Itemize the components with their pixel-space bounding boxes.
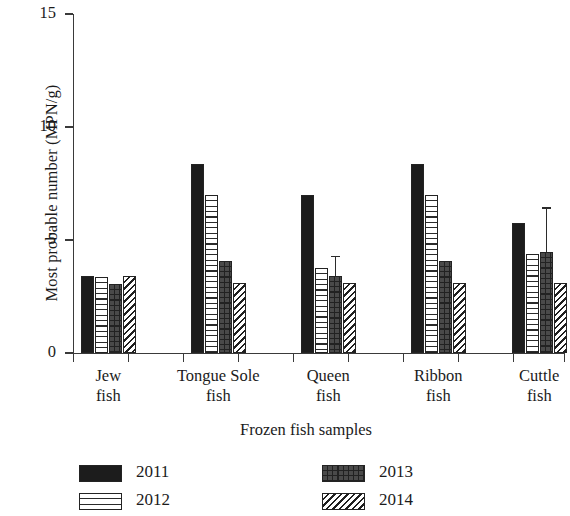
x-axis-tick-2 (183, 354, 184, 362)
y-axis-tick-label-15: 15 (10, 3, 56, 23)
x-axis-tick-5 (348, 354, 349, 362)
bar (453, 283, 466, 353)
x-axis-category-label-line: fish (479, 386, 570, 406)
y-axis-tick-5 (65, 239, 73, 240)
legend-swatch (79, 465, 122, 482)
bar (109, 284, 122, 353)
legend-swatch (322, 465, 365, 482)
x-axis-category-label-line: Jew (48, 366, 168, 386)
x-axis-category-label-line: Queen (268, 366, 388, 386)
bar (554, 283, 567, 353)
x-axis-category-label-line: fish (48, 386, 168, 406)
bar (81, 276, 94, 353)
bar (329, 276, 342, 353)
legend-label: 2014 (379, 490, 413, 510)
bar (205, 195, 218, 353)
y-axis-tick-label-5: 5 (10, 229, 56, 249)
error-bar (335, 256, 336, 276)
bar (439, 261, 452, 353)
bar-group (411, 14, 467, 353)
y-axis-tick-15 (65, 13, 73, 14)
x-axis-line (73, 353, 565, 354)
bar (526, 254, 539, 353)
bar-group (301, 14, 357, 353)
x-axis-tick-3 (238, 354, 239, 362)
x-axis-category-label-line: fish (268, 386, 388, 406)
x-axis-category-label-line: Cuttle (479, 366, 570, 386)
legend-swatch (322, 493, 365, 510)
x-axis-tick-7 (458, 354, 459, 362)
x-axis-category-label-line: Tongue Sole (158, 366, 278, 386)
x-axis-category-label: Tongue Solefish (158, 366, 278, 405)
bar (95, 277, 108, 353)
x-axis-category-label: Queenfish (268, 366, 388, 405)
bar (411, 164, 424, 353)
bar (191, 164, 204, 353)
bar-chart-figure: Most probable number (MPN/g) 051015 Jewf… (0, 0, 570, 516)
bar (425, 195, 438, 353)
bar (123, 276, 136, 353)
error-bar-cap (331, 256, 340, 257)
x-axis-tick-8 (513, 354, 514, 362)
y-axis-tick-label-0: 0 (10, 342, 56, 362)
bar (301, 195, 314, 353)
bar (315, 268, 328, 353)
bar-group (81, 14, 137, 353)
legend-swatch (79, 493, 122, 510)
bar-group (512, 14, 568, 353)
legend-label: 2011 (136, 462, 169, 482)
legend-label: 2013 (379, 462, 413, 482)
y-axis-line (73, 14, 74, 354)
bar-group (191, 14, 247, 353)
error-bar-cap (542, 207, 551, 208)
legend-label: 2012 (136, 490, 170, 510)
bar (219, 261, 232, 353)
y-axis-title: Most probable number (MPN/g) (42, 23, 62, 363)
bar (512, 223, 525, 353)
x-axis-category-label-line: fish (158, 386, 278, 406)
x-axis-tick-4 (293, 354, 294, 362)
y-axis-tick-10 (65, 126, 73, 127)
x-axis-tick-6 (403, 354, 404, 362)
y-axis-tick-label-10: 10 (10, 116, 56, 136)
x-axis-tick-0 (73, 354, 74, 362)
x-axis-tick-9 (564, 354, 565, 362)
x-axis-category-label: Cuttlefish (479, 366, 570, 405)
error-bar (546, 207, 547, 252)
chart-legend: 2011201220132014 (0, 461, 570, 516)
bar (540, 252, 553, 353)
x-axis-tick-1 (128, 354, 129, 362)
bar (233, 283, 246, 353)
y-axis-tick-0 (65, 352, 73, 353)
x-axis-title: Frozen fish samples (0, 420, 570, 440)
bar (343, 283, 356, 353)
x-axis-category-label: Jewfish (48, 366, 168, 405)
x-axis-title-text: Frozen fish samples (240, 420, 372, 439)
